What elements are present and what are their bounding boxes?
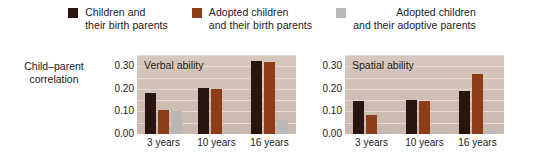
x-tick-label: 3 years (137, 137, 190, 149)
x-tick-label: 16 years (451, 137, 504, 149)
bar[interactable] (353, 101, 364, 134)
y-tick-label: 0.30 (323, 61, 342, 71)
y-tick-label: 0.20 (115, 84, 134, 94)
y-axis-caption: Child–parent correlation (6, 60, 102, 86)
chart-legend: Children and their birth parents Adopted… (0, 6, 556, 46)
bar[interactable] (277, 120, 288, 134)
bar[interactable] (264, 62, 275, 134)
bar[interactable] (158, 110, 169, 134)
plot-area-verbal: Verbal ability (137, 55, 296, 134)
y-tick-label: 0.00 (323, 129, 342, 139)
bar[interactable] (145, 93, 156, 134)
x-tick-label: 16 years (243, 137, 296, 149)
panel-title-verbal: Verbal ability (144, 59, 204, 71)
y-tick-label: 0.20 (323, 84, 342, 94)
bar[interactable] (171, 111, 182, 134)
legend-item-birth-parents: Children and their birth parents (68, 6, 168, 31)
plot-area-spatial: Spatial ability (345, 55, 504, 134)
bar-group (451, 55, 504, 134)
bar[interactable] (366, 115, 377, 134)
bar[interactable] (432, 132, 443, 134)
bar[interactable] (419, 101, 430, 134)
bar[interactable] (251, 61, 262, 134)
y-tick-label: 0.10 (323, 106, 342, 116)
bar[interactable] (211, 89, 222, 134)
legend-swatch-birth-icon (68, 8, 78, 18)
legend-item-adopted-birth-parents: Adopted children and their birth parents (192, 6, 312, 31)
bar[interactable] (485, 131, 496, 134)
x-tick-label: 3 years (345, 137, 398, 149)
legend-swatch-adopted-birth-icon (192, 8, 202, 18)
y-axis-ticks-spatial: 0.000.100.200.30 (312, 55, 342, 134)
legend-label-birth-parents: Children and their birth parents (85, 6, 168, 31)
bar[interactable] (379, 132, 390, 134)
legend-item-adoptive-parents: Adopted children and their adoptive pare… (336, 6, 476, 31)
y-tick-label: 0.00 (115, 129, 134, 139)
legend-label-adopted-birth-parents: Adopted children and their birth parents (209, 6, 312, 31)
panel-title-spatial: Spatial ability (352, 59, 414, 71)
x-tick-label: 10 years (398, 137, 451, 149)
x-axis-labels-spatial: 3 years10 years16 years (345, 137, 504, 149)
bar[interactable] (406, 100, 417, 134)
x-tick-label: 10 years (190, 137, 243, 149)
legend-swatch-adoptive-icon (336, 8, 346, 18)
bar[interactable] (198, 88, 209, 134)
x-axis-labels-verbal: 3 years10 years16 years (137, 137, 296, 149)
y-tick-label: 0.10 (115, 106, 134, 116)
chart-panel-spatial-ability: 0.000.100.200.30 Spatial ability 3 years… (312, 55, 504, 160)
y-axis-ticks-verbal: 0.000.100.200.30 (104, 55, 134, 134)
bar[interactable] (472, 74, 483, 134)
bar[interactable] (459, 91, 470, 134)
chart-panel-verbal-ability: 0.000.100.200.30 Verbal ability 3 years1… (104, 55, 296, 160)
bar[interactable] (224, 132, 235, 134)
legend-label-adoptive-parents: Adopted children and their adoptive pare… (353, 6, 476, 31)
bar-group (243, 55, 296, 134)
y-tick-label: 0.30 (115, 61, 134, 71)
